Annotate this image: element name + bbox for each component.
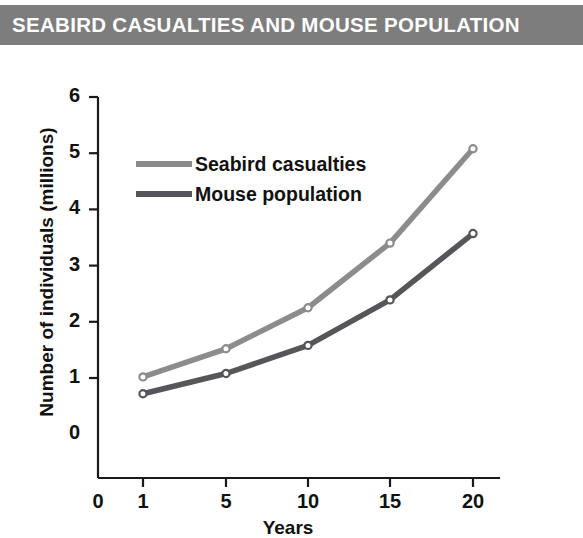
legend-label: Seabird casualties [195,153,366,176]
chart-title-banner: SEABIRD CASUALTIES AND MOUSE POPULATION [0,5,583,45]
y-axis-ticks [89,97,98,378]
legend-item: Seabird casualties [136,149,366,179]
legend-swatch-icon [136,191,192,197]
x-axis-tick-label: 20 [453,490,493,513]
data-point-marker [222,370,229,377]
data-point-marker [304,342,311,349]
legend-item: Mouse population [136,179,366,209]
x-axis-ticks [143,478,473,487]
y-axis-tick-label: 6 [50,84,80,107]
data-point-marker [386,296,393,303]
x-axis-tick-label: 0 [78,490,118,513]
data-point-marker [469,145,476,152]
chart-canvas [0,45,583,502]
series-line [143,234,473,394]
data-point-marker [469,230,476,237]
x-axis-tick-label: 10 [288,490,328,513]
data-point-marker [139,373,146,380]
x-axis-tick-label: 15 [370,490,410,513]
chart-title: SEABIRD CASUALTIES AND MOUSE POPULATION [0,13,520,37]
data-point-marker [304,304,311,311]
x-axis-tick-label: 5 [206,490,246,513]
x-axis-title: Years [98,517,478,538]
series-mouse-population [139,230,476,397]
x-axis-tick-label: 1 [123,490,163,513]
data-point-marker [222,345,229,352]
plot-area: 0123456 015101520 Number of individuals … [0,45,583,502]
data-point-marker [386,240,393,247]
data-point-marker [139,390,146,397]
legend-label: Mouse population [195,183,362,206]
y-axis-title: Number of individuals (millions) [36,107,58,437]
chart-legend: Seabird casualtiesMouse population [136,149,366,209]
legend-swatch-icon [136,161,192,167]
